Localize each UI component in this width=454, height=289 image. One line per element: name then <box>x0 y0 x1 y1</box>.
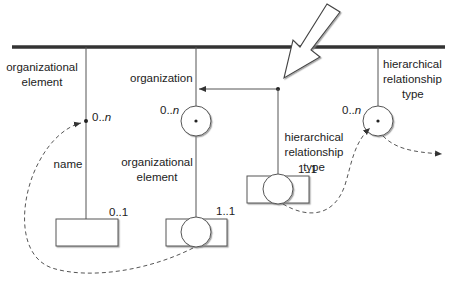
column-label: element <box>22 76 64 88</box>
multiplicity-label: 1..1 <box>298 163 317 175</box>
junction-dot <box>84 119 88 123</box>
multiplicity-label: 0..n <box>92 111 111 123</box>
attribute-box-name <box>56 219 118 246</box>
attribute-label: relationship <box>285 146 344 158</box>
reference-curve-outgoing <box>383 136 442 154</box>
attribute-label: element <box>137 171 179 183</box>
column-label: organization <box>130 72 193 84</box>
multiplicity-label: 1..1 <box>216 205 235 217</box>
pointer-arrow-icon <box>284 4 340 78</box>
attribute-node-circle <box>181 217 211 247</box>
column-label: hierarchical <box>383 58 442 70</box>
column-label: relationship <box>383 73 442 85</box>
attribute-label-name: name <box>54 158 83 170</box>
column-organization: organization 0..n organizational element… <box>121 47 235 247</box>
reference-curve-org-element <box>25 123 193 273</box>
attribute-hierarchical-relationship-type: hierarchical relationship type 1..1 <box>247 131 343 204</box>
column-label: type <box>402 88 424 100</box>
attribute-node-circle <box>263 174 293 204</box>
attribute-label: hierarchical <box>285 131 344 143</box>
column-hierarchical-relationship-type: hierarchical relationship type 0..n <box>342 47 442 136</box>
column-label: organizational <box>6 61 78 73</box>
multiplicity-label: 0..1 <box>109 206 128 218</box>
diagram-canvas: organizational element 0..n name 0..1 or… <box>0 0 454 289</box>
attribute-label: organizational <box>121 156 193 168</box>
multiplicity-label: 0..n <box>160 104 179 116</box>
multiplicity-label: 0..n <box>342 104 361 116</box>
column-organizational-element: organizational element 0..n name 0..1 <box>6 47 128 246</box>
node-dot <box>376 119 379 122</box>
node-dot <box>194 119 197 122</box>
